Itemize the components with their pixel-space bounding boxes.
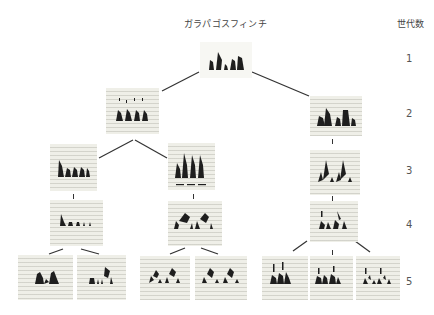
spectrogram-graphic xyxy=(18,255,73,300)
sonogram-gen4-left xyxy=(50,200,103,246)
spectrogram-graphic xyxy=(310,256,353,300)
connector-tick xyxy=(332,139,333,144)
spectrogram-graphic xyxy=(310,150,360,195)
spectrogram-graphic xyxy=(310,201,358,242)
sonogram-gen5-6 xyxy=(310,256,353,300)
sonogram-gen5-3 xyxy=(140,256,190,300)
sonogram-gen1 xyxy=(200,42,252,78)
sonogram-gen4-middle xyxy=(168,201,222,246)
spectrogram-graphic xyxy=(168,201,222,246)
spectrogram-graphic xyxy=(200,42,252,78)
spectrogram-graphic xyxy=(77,255,126,300)
connector-tick xyxy=(193,194,194,199)
sonogram-gen5-2 xyxy=(77,255,126,300)
sonogram-gen2-right xyxy=(310,96,362,136)
spectrogram-graphic xyxy=(50,200,103,246)
sonogram-gen3-middle xyxy=(168,143,215,190)
sonogram-gen2-left xyxy=(106,88,159,134)
sonogram-gen5-1 xyxy=(18,255,73,300)
connector-tick xyxy=(332,250,333,255)
sonogram-gen3-left xyxy=(50,144,97,191)
spectrogram-graphic xyxy=(168,143,215,190)
spectrogram-graphic xyxy=(106,88,159,134)
spectrogram-graphic xyxy=(140,256,190,300)
sonogram-gen3-right xyxy=(310,150,360,195)
spectrogram-graphic xyxy=(310,96,362,136)
sonogram-gen5-4 xyxy=(195,256,247,300)
spectrogram-graphic xyxy=(195,256,247,300)
spectrogram-graphic xyxy=(262,256,308,300)
sonogram-gen5-5 xyxy=(262,256,308,300)
sonogram-gen4-right xyxy=(310,201,358,242)
spectrogram-graphic xyxy=(356,256,400,300)
sonogram-gen5-7 xyxy=(356,256,400,300)
connector-tick xyxy=(73,194,74,199)
spectrogram-graphic xyxy=(50,144,97,191)
